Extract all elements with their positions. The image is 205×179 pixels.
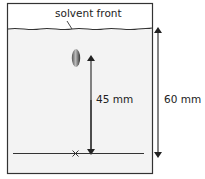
chromatography-diagram: solvent front 45 mm 60 mm <box>0 0 205 179</box>
solvent-front-leader <box>67 21 72 29</box>
solvent-distance-label: 60 mm <box>164 93 201 105</box>
sample-spot <box>72 49 80 67</box>
solvent-front-label: solvent front <box>55 7 122 19</box>
spot-distance-label: 45 mm <box>96 93 133 105</box>
